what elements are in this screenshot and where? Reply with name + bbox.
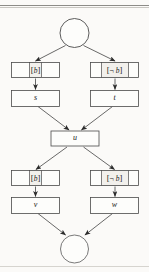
bracket-close-icon: ] <box>119 65 122 75</box>
guard-b-top-label: [b] <box>11 66 60 75</box>
action-w-label: w <box>90 201 139 209</box>
edge-start-to-guard-b-top <box>36 46 66 62</box>
bracket-close-icon: ] <box>37 65 40 75</box>
node-end-circle[interactable] <box>61 235 89 263</box>
diagram-canvas: [b] [¬ b] s t u [b] [¬ b] v w <box>0 0 149 272</box>
bracket-close-icon: ] <box>119 173 122 183</box>
edge-u-to-guard-b-bottom <box>36 147 67 170</box>
guard-notb-bottom-label: [¬ b] <box>90 174 139 183</box>
edge-t-to-u <box>82 107 113 131</box>
negation-icon: ¬ <box>110 174 114 183</box>
guard-notb-top-label: [¬ b] <box>90 66 139 75</box>
edge-w-to-end <box>85 214 113 236</box>
action-s-label: s <box>11 94 60 102</box>
guard-b-bottom-label: [b] <box>11 174 60 183</box>
action-u-label: u <box>51 134 99 142</box>
edge-v-to-end <box>38 214 66 236</box>
node-start-circle[interactable] <box>60 19 89 48</box>
bracket-close-icon: ] <box>37 173 40 183</box>
edge-u-to-guard-notb-bottom <box>84 147 115 170</box>
edge-s-to-u <box>38 107 69 131</box>
negation-icon: ¬ <box>110 66 114 75</box>
action-t-label: t <box>90 94 139 102</box>
action-v-label: v <box>11 201 60 209</box>
edge-start-to-guard-notb-top <box>84 46 116 62</box>
